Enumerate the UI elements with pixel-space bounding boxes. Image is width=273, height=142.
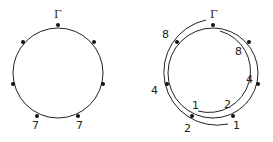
gamma-label: Γ [54, 8, 62, 21]
right-circle [168, 28, 258, 118]
dot [256, 82, 260, 86]
weight-label: 1 [192, 99, 199, 112]
weight-label: 7 [32, 119, 39, 132]
weight-label: 4 [151, 84, 158, 97]
left-diagram: Γ 7 7 [11, 8, 105, 132]
dot [92, 40, 96, 44]
dot [175, 40, 179, 44]
dot [11, 82, 15, 86]
dot [21, 40, 25, 44]
weight-label: 4 [246, 73, 253, 86]
weight-label: 2 [184, 122, 191, 135]
dot [76, 114, 80, 118]
dot [190, 114, 194, 118]
weight-label: 8 [235, 45, 242, 58]
dot [101, 82, 105, 86]
dot [211, 23, 215, 27]
weight-label: 7 [76, 119, 83, 132]
dot [165, 82, 169, 86]
weight-label: 8 [162, 28, 169, 41]
left-circle [13, 28, 103, 118]
dot [231, 114, 235, 118]
dot [56, 23, 60, 27]
weight-label: 2 [224, 98, 231, 111]
right-diagram: Γ 8 8 4 4 1 2 2 1 [151, 8, 260, 135]
dot [35, 114, 39, 118]
gamma-label: Γ [210, 8, 218, 21]
weight-label: 1 [233, 119, 240, 132]
diagram-canvas: Γ 7 7 Γ 8 8 4 4 1 2 2 1 [0, 0, 273, 142]
dot [247, 40, 251, 44]
